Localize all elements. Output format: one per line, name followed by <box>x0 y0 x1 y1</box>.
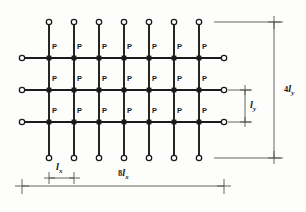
load-label: P <box>152 75 157 83</box>
joint-marker <box>97 56 102 61</box>
load-label: P <box>52 107 57 115</box>
support-node <box>171 19 176 24</box>
joint-marker <box>172 120 177 125</box>
joint-marker <box>122 88 127 93</box>
load-label: P <box>202 107 207 115</box>
joint-marker <box>97 120 102 125</box>
dimension-total-x <box>15 179 231 194</box>
joint-marker <box>97 88 102 93</box>
support-node <box>19 119 24 124</box>
load-label: P <box>202 75 207 83</box>
load-label: P <box>177 43 182 51</box>
support-node <box>96 155 101 160</box>
load-label: P <box>152 107 157 115</box>
dimension-subscript: x <box>125 173 129 181</box>
load-label: P <box>52 43 57 51</box>
load-label: P <box>202 43 207 51</box>
support-node <box>221 119 226 124</box>
support-node <box>19 55 24 60</box>
load-label: P <box>177 107 182 115</box>
dimension-spacing-y <box>228 85 252 127</box>
support-node <box>71 19 76 24</box>
load-label: P <box>127 107 132 115</box>
support-node <box>171 155 176 160</box>
dimension-label-total-x: 8lx <box>118 168 129 181</box>
dimension-subscript: y <box>291 89 294 97</box>
dimension-label-spacing-x: lx <box>56 162 62 175</box>
support-node <box>146 155 151 160</box>
load-label: P <box>77 107 82 115</box>
joint-marker <box>122 120 127 125</box>
load-label: P <box>177 75 182 83</box>
support-node <box>19 87 24 92</box>
joint-marker <box>147 88 152 93</box>
load-label: P <box>77 43 82 51</box>
load-label: P <box>127 75 132 83</box>
load-label: P <box>77 75 82 83</box>
support-node <box>146 19 151 24</box>
support-node <box>71 155 76 160</box>
dimension-label-spacing-y: ly <box>250 100 256 113</box>
load-label: P <box>127 43 132 51</box>
joint-marker <box>197 56 202 61</box>
load-label: P <box>152 43 157 51</box>
dimension-subscript: x <box>59 167 63 175</box>
joint-marker <box>122 56 127 61</box>
dimension-subscript: y <box>253 105 256 113</box>
joint-marker <box>47 120 52 125</box>
joint-marker <box>147 120 152 125</box>
joint-marker <box>172 88 177 93</box>
support-node <box>221 87 226 92</box>
support-node <box>96 19 101 24</box>
joint-marker <box>72 56 77 61</box>
support-node <box>46 155 51 160</box>
joint-marker <box>47 88 52 93</box>
figure-canvas: P P P P P P P P P P P P P P P P P P P P … <box>0 0 306 212</box>
support-node <box>46 19 51 24</box>
joint-marker <box>147 56 152 61</box>
support-node <box>221 55 226 60</box>
support-node <box>196 155 201 160</box>
joint-marker <box>197 120 202 125</box>
support-node <box>121 155 126 160</box>
support-node <box>121 19 126 24</box>
load-label: P <box>102 107 107 115</box>
load-label: P <box>102 75 107 83</box>
dimension-label-total-y: 4ly <box>284 84 294 97</box>
joint-marker <box>72 88 77 93</box>
joint-marker <box>47 56 52 61</box>
joint-marker <box>197 88 202 93</box>
joint-marker <box>172 56 177 61</box>
load-label: P <box>52 75 57 83</box>
joint-marker <box>72 120 77 125</box>
load-label: P <box>102 43 107 51</box>
support-node <box>196 19 201 24</box>
